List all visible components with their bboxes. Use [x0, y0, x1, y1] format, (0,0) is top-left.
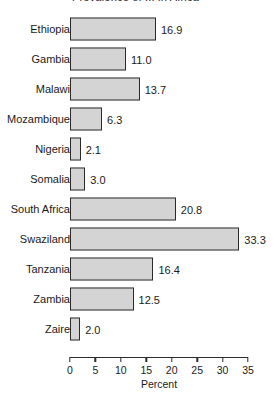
bar-container: 20.8 [70, 198, 202, 221]
bar-container: 3.0 [70, 168, 106, 191]
bar[interactable] [70, 48, 126, 71]
bar-container: 13.7 [70, 78, 166, 101]
bar[interactable] [70, 318, 80, 341]
category-label: Malawi [0, 83, 70, 95]
x-axis: Percent 05101520253035 [70, 357, 248, 395]
category-label: Zaire [0, 323, 70, 335]
category-label: South Africa [0, 203, 70, 215]
bar-value-label: 6.3 [107, 113, 122, 125]
x-axis-tick-label: 20 [166, 364, 178, 376]
bar[interactable] [70, 168, 85, 191]
bar-value-label: 2.1 [86, 143, 101, 155]
x-axis-tick [120, 357, 121, 362]
x-axis-tick-label: 25 [191, 364, 203, 376]
bar-chart: Prevalence of ... in Africa Ethiopia16.9… [0, 0, 275, 396]
bar[interactable] [70, 138, 81, 161]
bar[interactable] [70, 288, 134, 311]
x-axis-tick-label: 30 [217, 364, 229, 376]
category-label: Tanzania [0, 263, 70, 275]
x-axis-tick-label: 5 [93, 364, 99, 376]
category-label: Ethiopia [0, 23, 70, 35]
bar-value-label: 3.0 [90, 173, 105, 185]
x-axis-tick [171, 357, 172, 362]
chart-rows: Ethiopia16.9Gambia11.0Malawi13.7Mozambiq… [0, 14, 275, 344]
x-axis-tick [146, 357, 147, 362]
x-axis-tick [196, 357, 197, 362]
x-axis-tick-label: 15 [140, 364, 152, 376]
x-axis-tick-label: 0 [67, 364, 73, 376]
bar-row: Zambia12.5 [0, 284, 275, 314]
bar-container: 16.4 [70, 258, 180, 281]
bar[interactable] [70, 18, 156, 41]
bar-container: 33.3 [70, 228, 266, 251]
bar[interactable] [70, 78, 140, 101]
bar-value-label: 2.0 [85, 323, 100, 335]
category-label: Mozambique [0, 113, 70, 125]
bar-row: Gambia11.0 [0, 44, 275, 74]
bar-row: Somalia3.0 [0, 164, 275, 194]
category-label: Swaziland [0, 233, 70, 245]
bar[interactable] [70, 198, 176, 221]
x-axis-tick-label: 10 [115, 364, 127, 376]
bar-row: Ethiopia16.9 [0, 14, 275, 44]
bar-value-label: 16.4 [158, 263, 179, 275]
bar-row: Swaziland33.3 [0, 224, 275, 254]
x-axis-tick-label: 35 [242, 364, 254, 376]
category-label: Gambia [0, 53, 70, 65]
bar-container: 16.9 [70, 18, 182, 41]
bar-row: Mozambique6.3 [0, 104, 275, 134]
bar-value-label: 13.7 [145, 83, 166, 95]
category-label: Nigeria [0, 143, 70, 155]
bar-value-label: 20.8 [181, 203, 202, 215]
x-axis-tick [247, 357, 248, 362]
bar-value-label: 16.9 [161, 23, 182, 35]
x-axis-tick [95, 357, 96, 362]
bar-value-label: 12.5 [139, 293, 160, 305]
bar-row: Nigeria2.1 [0, 134, 275, 164]
bar-row: Tanzania16.4 [0, 254, 275, 284]
category-label: Zambia [0, 293, 70, 305]
x-axis-label: Percent [70, 378, 248, 390]
bar-value-label: 33.3 [244, 233, 265, 245]
bar-container: 6.3 [70, 108, 122, 131]
bar[interactable] [70, 228, 239, 251]
bar[interactable] [70, 258, 153, 281]
bar-container: 12.5 [70, 288, 160, 311]
bar[interactable] [70, 108, 102, 131]
bar-container: 11.0 [70, 48, 152, 71]
category-label: Somalia [0, 173, 70, 185]
bar-container: 2.0 [70, 318, 100, 341]
bar-row: Malawi13.7 [0, 74, 275, 104]
bar-row: Zaire2.0 [0, 314, 275, 344]
x-axis-tick [222, 357, 223, 362]
bar-row: South Africa20.8 [0, 194, 275, 224]
chart-title: Prevalence of ... in Africa [58, 0, 213, 3]
x-axis-tick [69, 357, 70, 362]
bar-container: 2.1 [70, 138, 101, 161]
bar-value-label: 11.0 [131, 53, 152, 65]
